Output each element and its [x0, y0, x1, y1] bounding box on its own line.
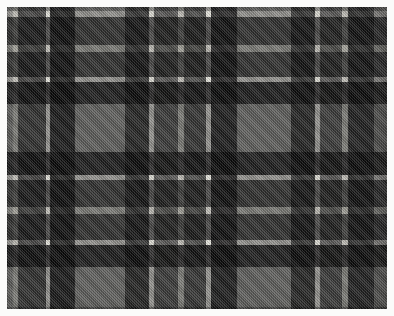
weft-band-pale [7, 207, 387, 214]
weft-band-dark [7, 214, 387, 240]
weft-band-black [7, 152, 387, 175]
weft-band-dark [7, 17, 387, 45]
weft-band-light [7, 267, 387, 307]
weft-band-black [7, 82, 387, 104]
weft-band-medium [7, 307, 387, 309]
weft-bands [7, 7, 387, 309]
weft-band-dark [7, 180, 387, 207]
weft-band-light [7, 104, 387, 152]
weft-band-dark [7, 52, 387, 77]
weft-band-black [7, 245, 387, 267]
tartan-swatch [7, 7, 387, 309]
weft-band-pale [7, 45, 387, 52]
tartan-image [0, 0, 394, 316]
